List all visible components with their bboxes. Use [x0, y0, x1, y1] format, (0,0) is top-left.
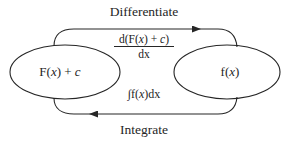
derivative-fraction: d(F(x) + c) dx	[94, 33, 194, 61]
differentiate-label: Differentiate	[0, 5, 288, 19]
right-node-label: f(x)	[180, 65, 280, 78]
integrate-arrow-tail	[54, 98, 90, 114]
integral-expression-label: ∫f(x)dx	[94, 88, 194, 100]
derivative-numerator: d(F(x) + c)	[94, 33, 194, 46]
math-cycle-diagram: Differentiate Integrate F(x) + c f(x) d(…	[0, 0, 288, 143]
left-node-label: F(x) + c	[10, 65, 110, 78]
differentiate-arrow-tail	[200, 29, 237, 47]
derivative-denominator: dx	[94, 48, 194, 61]
fraction-bar	[114, 46, 174, 47]
integrate-label: Integrate	[0, 123, 288, 137]
